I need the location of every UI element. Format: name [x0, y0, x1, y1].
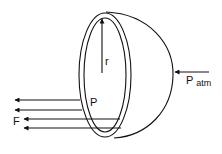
pressure-label: P [90, 97, 97, 108]
force-label: F [13, 116, 20, 127]
atm-pressure-label: Patm [186, 75, 211, 86]
inner-rim-ellipse [84, 18, 126, 132]
diagram-container: r P F Patm [0, 0, 222, 154]
atm-pressure-label-main: P [186, 74, 193, 86]
outer-rim-ellipse [79, 13, 131, 137]
atm-pressure-label-sub: atm [196, 78, 211, 88]
radius-label: r [105, 56, 109, 67]
